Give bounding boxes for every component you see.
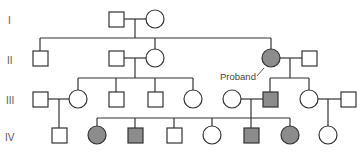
male-unaffected-I-1	[109, 12, 124, 27]
male-unaffected-IV-4	[167, 128, 182, 143]
male-affected-III-7	[263, 92, 278, 107]
pedigree-chart: I II III IV	[0, 0, 364, 157]
male-unaffected-IV-1	[52, 128, 67, 143]
proband-label: Proband	[220, 71, 256, 82]
female-unaffected-I-2	[146, 10, 164, 28]
male-affected-IV-3	[128, 128, 143, 143]
male-unaffected-III-4	[148, 92, 163, 107]
female-unaffected-IV-5	[203, 126, 221, 144]
female-unaffected-III-2	[69, 90, 87, 108]
male-unaffected-II-2	[109, 51, 124, 66]
female-unaffected-II-3	[146, 49, 164, 67]
male-unaffected-II-1	[33, 51, 48, 66]
generation-label-4: IV	[5, 132, 15, 143]
female-affected-IV-7	[281, 126, 299, 144]
male-unaffected-III-9	[341, 92, 356, 107]
female-unaffected-III-6	[223, 90, 241, 108]
generation-label-3: III	[6, 95, 14, 106]
male-unaffected-III-3	[109, 92, 124, 107]
male-unaffected-II-5	[302, 51, 317, 66]
generation-label-2: II	[7, 55, 13, 66]
female-affected-IV-2	[88, 126, 106, 144]
individuals	[33, 10, 356, 144]
generation-label-1: I	[8, 15, 11, 26]
relationship-lines	[40, 19, 341, 128]
female-unaffected-IV-8	[319, 126, 337, 144]
female-unaffected-III-8	[300, 90, 318, 108]
male-unaffected-III-1	[33, 92, 48, 107]
male-affected-IV-6	[244, 128, 259, 143]
female-unaffected-III-5	[184, 90, 202, 108]
female-affected-proband-II-4	[262, 49, 280, 67]
